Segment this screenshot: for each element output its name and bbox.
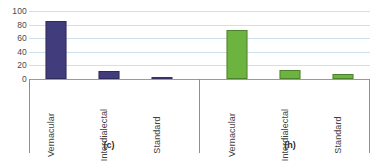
bar-h-vernacular <box>226 30 247 79</box>
bar-chart-figure: 100 80 60 40 20 0 <box>0 0 374 162</box>
panel-c-bars <box>29 11 189 79</box>
plot-area <box>29 11 370 79</box>
bar-h-interdialectal <box>279 70 300 79</box>
bar-slot-c-interdialectal <box>82 11 135 79</box>
bar-slot-h-interdialectal <box>263 11 316 79</box>
panel-h-category-labels: Vernacular Interdialectal Standard <box>210 80 370 135</box>
panel-caption-h: (h) <box>210 140 370 150</box>
bar-c-vernacular <box>45 21 66 79</box>
bar-c-interdialectal <box>98 71 119 79</box>
y-tick-label-80: 80 <box>1 20 27 29</box>
category-label-c-interdialectal: Interdialectal <box>99 109 109 161</box>
bar-slot-c-vernacular <box>29 11 82 79</box>
y-tick-label-0: 0 <box>1 75 27 84</box>
bar-slot-c-standard <box>136 11 189 79</box>
bar-slot-h-standard <box>317 11 370 79</box>
cat-slot-c-3: Standard <box>136 80 189 135</box>
cat-slot-c-2: Interdialectal <box>82 80 135 135</box>
cat-slot-h-3: Standard <box>317 80 370 135</box>
category-label-c-vernacular: Vernacular <box>46 113 56 157</box>
cat-slot-h-1: Vernacular <box>210 80 263 135</box>
cat-slot-h-2: Interdialectal <box>263 80 316 135</box>
panel-c-category-labels: Vernacular Interdialectal Standard <box>29 80 189 135</box>
panel-caption-c: (c) <box>29 140 189 150</box>
y-tick-label-20: 20 <box>1 61 27 70</box>
y-tick-label-100: 100 <box>1 7 27 16</box>
category-label-h-interdialectal: Interdialectal <box>280 109 290 161</box>
cat-slot-c-1: Vernacular <box>29 80 82 135</box>
y-axis-tick-labels: 100 80 60 40 20 0 <box>0 0 27 162</box>
bar-slot-h-vernacular <box>210 11 263 79</box>
y-tick-label-40: 40 <box>1 47 27 56</box>
y-tick-label-60: 60 <box>1 34 27 43</box>
category-label-h-vernacular: Vernacular <box>227 113 237 157</box>
panel-divider-line <box>199 79 200 153</box>
panel-h-bars <box>210 11 370 79</box>
